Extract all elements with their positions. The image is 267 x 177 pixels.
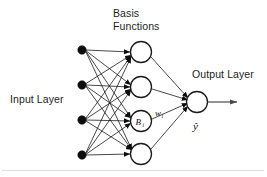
input-node-4 [78,151,86,159]
basis-node-3 [131,111,152,132]
input-layer-label: Input Layer [10,93,64,105]
basis-to-output-edges [151,57,188,149]
neural-network-diagram: B i w i Input Layer Basis Functions Outp… [0,0,267,177]
basis-node-symbol: B [136,117,142,127]
basis-node-4 [131,144,152,165]
basis-function-nodes [131,42,152,165]
output-node [187,92,208,113]
basis-node-2 [131,77,152,98]
output-symbol-label: ŷ [192,120,198,132]
input-layer-nodes [78,46,86,159]
output-layer-label: Output Layer [192,68,254,80]
input-to-basis-edges [86,50,132,155]
weight-symbol: w [155,108,161,118]
input-node-3 [78,116,86,124]
network-canvas: B i w i Input Layer Basis Functions Outp… [0,0,267,177]
basis-functions-label-line2: Functions [113,20,159,32]
basis-functions-label-line1: Basis [113,7,139,19]
input-node-1 [78,46,86,54]
input-node-2 [78,81,86,89]
basis-node-1 [131,42,152,63]
